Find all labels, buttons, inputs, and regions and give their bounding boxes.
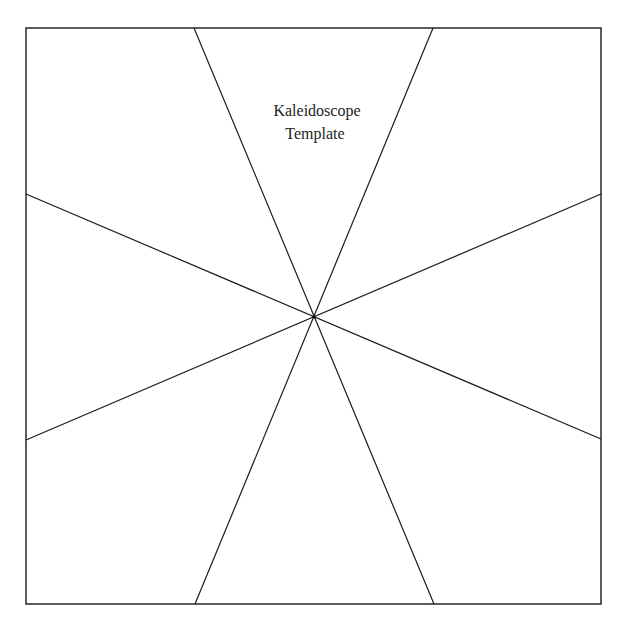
center-point <box>313 316 316 319</box>
kaleidoscope-template-diagram: Kaleidoscope Template <box>0 0 626 628</box>
title-line-2: Template <box>285 125 344 143</box>
title-line-1: Kaleidoscope <box>273 102 360 120</box>
